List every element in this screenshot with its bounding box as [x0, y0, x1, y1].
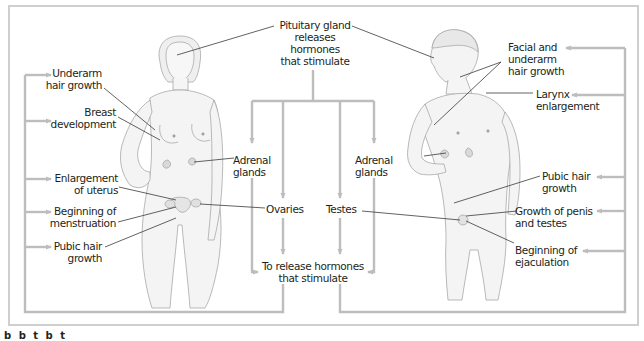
adrenal-glands-male-label: Adrenal glands: [355, 154, 393, 178]
male-neck: [446, 78, 472, 94]
ovaries-label: Ovaries: [266, 203, 304, 215]
male-effect-facial-underarm-hair: Facial and underarm hair growth: [508, 41, 564, 77]
male-effect-penis-testes-growth: Growth of penis and testes: [515, 205, 593, 229]
testes-label: Testes: [326, 203, 357, 215]
female-effect-breast-development: Breast development: [40, 106, 116, 130]
female-figure-illustration: [120, 36, 222, 308]
pituitary-gland-label: Pituitary gland releases hormones that s…: [270, 19, 360, 67]
female-effect-uterus-enlargement: Enlargement of uterus: [40, 172, 118, 196]
female-neck: [173, 78, 188, 90]
male-torso: [425, 93, 512, 300]
female-effect-underarm-hair: Underarm hair growth: [40, 67, 102, 91]
female-effect-menstruation: Beginning of menstruation: [40, 205, 116, 229]
male-figure-illustration: [408, 30, 521, 300]
male-adrenal-left: [441, 150, 449, 158]
release-hormones-label: To release hormones that stimulate: [255, 260, 371, 284]
male-effect-ejaculation: Beginning of ejaculation: [515, 244, 577, 268]
female-adrenal-right: [189, 158, 196, 165]
female-effect-pubic-hair: Pubic hair growth: [40, 240, 102, 264]
adrenal-glands-female-label: Adrenal glands: [233, 154, 271, 178]
male-effect-pubic-hair: Pubic hair growth: [542, 170, 590, 194]
male-effect-larynx-enlargement: Larynx enlargement: [536, 88, 599, 112]
female-adrenal-left: [163, 160, 171, 168]
caption-partial: b b t b t: [4, 330, 67, 341]
female-arm-left: [120, 100, 152, 188]
